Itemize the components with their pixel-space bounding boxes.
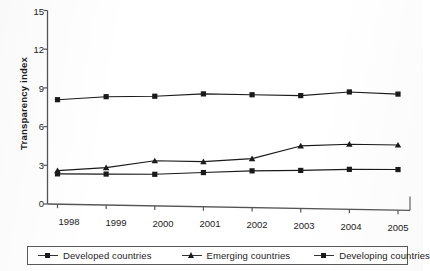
legend-label-emerging: Emerging countries <box>207 250 291 261</box>
legend-item-emerging: Emerging countries <box>182 250 291 261</box>
x-axis-line <box>48 204 411 210</box>
legend-item-developing: Developing countries <box>314 250 430 261</box>
square-marker-icon <box>347 167 352 172</box>
square-marker-icon <box>55 171 60 176</box>
square-marker-icon <box>298 168 303 173</box>
series-group <box>54 89 401 177</box>
square-marker-icon <box>152 172 157 177</box>
axes-group <box>44 11 411 215</box>
square-marker-icon <box>314 251 334 261</box>
square-marker-icon <box>347 89 352 94</box>
square-marker-icon <box>298 93 303 98</box>
chart-legend: Developed countries Emerging countries D… <box>27 246 408 265</box>
square-marker-icon <box>201 170 206 175</box>
square-marker-icon <box>152 94 157 99</box>
square-marker-icon <box>201 91 206 96</box>
legend-label-developing: Developing countries <box>339 250 430 261</box>
square-marker-icon <box>38 251 58 261</box>
square-marker-icon <box>104 94 109 99</box>
square-marker-icon <box>249 92 254 97</box>
legend-label-developed: Developed countries <box>63 250 152 261</box>
square-marker-icon <box>55 97 60 102</box>
triangle-marker-icon <box>182 251 202 261</box>
legend-item-developed: Developed countries <box>38 250 152 261</box>
square-marker-icon <box>395 92 400 97</box>
square-marker-icon <box>249 168 254 173</box>
square-marker-icon <box>104 171 109 176</box>
square-marker-icon <box>395 167 400 172</box>
series-line-1 <box>58 144 399 170</box>
